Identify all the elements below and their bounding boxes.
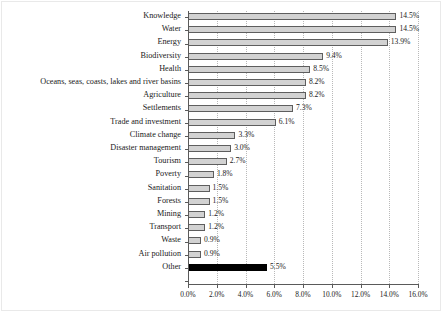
- bar-value-label: 3.3%: [238, 129, 254, 141]
- y-axis-tick: [185, 149, 189, 150]
- category-label-climate-change: Climate change: [130, 129, 181, 141]
- category-label-mining: Mining: [157, 208, 181, 220]
- bar-value-label: 1.2%: [208, 221, 224, 233]
- bar-row: 14.5%: [188, 24, 418, 37]
- bar-energy[interactable]: [188, 39, 388, 46]
- category-label-oceans-seas-coasts-lakes-and-river-basins: Oceans, seas, coasts, lakes and river ba…: [40, 76, 181, 88]
- x-axis-tick: [418, 284, 419, 288]
- bar-forests[interactable]: [188, 198, 210, 205]
- bar-mining[interactable]: [188, 211, 205, 218]
- bar-water[interactable]: [188, 26, 396, 33]
- bar-row: 13.9%: [188, 37, 418, 50]
- y-axis-tick: [185, 176, 189, 177]
- y-axis-tick: [185, 162, 189, 163]
- y-axis-tick: [185, 202, 189, 203]
- category-label-air-pollution: Air pollution: [138, 248, 181, 260]
- x-axis-tick: [217, 284, 218, 288]
- category-label-tourism: Tourism: [154, 155, 181, 167]
- bar-value-label: 8.2%: [309, 89, 325, 101]
- bar-value-label: 0.9%: [204, 248, 220, 260]
- bar-transport[interactable]: [188, 224, 205, 231]
- x-axis-tick: [303, 284, 304, 288]
- y-axis-tick: [185, 281, 189, 282]
- bar-row: 5.5%: [188, 262, 418, 275]
- bar-value-label: 1.2%: [208, 208, 224, 220]
- plot-area: 14.5%14.5%13.9%9.4%8.5%8.2%8.2%7.3%6.1%3…: [188, 11, 418, 284]
- category-label-forests: Forests: [157, 195, 181, 207]
- bar-value-label: 8.2%: [309, 76, 325, 88]
- bar-tourism[interactable]: [188, 158, 227, 165]
- bar-biodiversity[interactable]: [188, 53, 323, 60]
- bar-value-label: 1.5%: [213, 195, 229, 207]
- y-axis-tick: [185, 110, 189, 111]
- bar-value-label: 7.3%: [296, 102, 312, 114]
- y-axis-tick: [185, 44, 189, 45]
- category-label-biodiversity: Biodiversity: [141, 50, 181, 62]
- category-label-agriculture: Agriculture: [143, 89, 181, 101]
- x-axis-tick-label: 10.0%: [322, 290, 341, 299]
- x-axis-tick-label: 6.0%: [267, 290, 282, 299]
- y-axis-tick: [185, 255, 189, 256]
- category-axis-line: [188, 11, 189, 284]
- bar-trade-and-investment[interactable]: [188, 119, 276, 126]
- x-axis-tick: [332, 284, 333, 288]
- bar-row: 1.2%: [188, 209, 418, 222]
- bar-row: 6.1%: [188, 117, 418, 130]
- bar-settlements[interactable]: [188, 105, 293, 112]
- bar-row: 3.3%: [188, 130, 418, 143]
- bar-climate-change[interactable]: [188, 132, 235, 139]
- y-axis-tick: [185, 268, 189, 269]
- category-label-settlements: Settlements: [143, 102, 181, 114]
- bar-value-label: 9.4%: [326, 50, 342, 62]
- y-axis-tick: [185, 83, 189, 84]
- bar-value-label: 8.5%: [313, 63, 329, 75]
- category-label-poverty: Poverty: [156, 168, 181, 180]
- x-axis-tick-label: 4.0%: [238, 290, 253, 299]
- bar-row: 8.5%: [188, 64, 418, 77]
- bar-other[interactable]: [188, 264, 267, 271]
- category-label-other: Other: [162, 261, 181, 273]
- y-axis-tick: [185, 30, 189, 31]
- category-label-sanitation: Sanitation: [148, 182, 181, 194]
- y-axis-tick: [185, 215, 189, 216]
- x-axis-tick-label: 0.0%: [180, 290, 195, 299]
- x-axis-tick-label: 12.0%: [351, 290, 370, 299]
- category-axis-labels: KnowledgeWaterEnergyBiodiversityHealthOc…: [0, 11, 185, 284]
- category-label-trade-and-investment: Trade and investment: [110, 116, 181, 128]
- y-axis-tick: [185, 136, 189, 137]
- bar-value-label: 1.8%: [217, 168, 233, 180]
- bar-poverty[interactable]: [188, 171, 214, 178]
- x-axis-tick-label: 8.0%: [295, 290, 310, 299]
- y-axis-tick: [185, 57, 189, 58]
- category-label-knowledge: Knowledge: [143, 10, 181, 22]
- bar-agriculture[interactable]: [188, 92, 306, 99]
- bar-row: 1.2%: [188, 222, 418, 235]
- bar-row: 14.5%: [188, 11, 418, 24]
- bar-disaster-management[interactable]: [188, 145, 231, 152]
- bar-value-label: 5.5%: [270, 261, 286, 273]
- bar-value-label: 0.9%: [204, 234, 220, 246]
- bar-row: 8.2%: [188, 77, 418, 90]
- gridline-160: [418, 11, 419, 284]
- category-label-energy: Energy: [158, 36, 182, 48]
- bar-value-label: 1.5%: [213, 182, 229, 194]
- x-axis-tick: [246, 284, 247, 288]
- bar-value-label: 14.5%: [399, 23, 419, 35]
- bar-row: 0.9%: [188, 249, 418, 262]
- x-axis-tick-label: 14.0%: [380, 290, 399, 299]
- category-label-water: Water: [162, 23, 181, 35]
- y-axis-tick: [185, 17, 189, 18]
- bar-row: 9.4%: [188, 51, 418, 64]
- bar-row: 1.5%: [188, 196, 418, 209]
- bar-health[interactable]: [188, 66, 310, 73]
- bar-knowledge[interactable]: [188, 13, 396, 20]
- bar-sanitation[interactable]: [188, 185, 210, 192]
- bar-waste[interactable]: [188, 237, 201, 244]
- bar-value-label: 14.5%: [399, 10, 419, 22]
- bar-air-pollution[interactable]: [188, 251, 201, 258]
- x-axis-tick: [389, 284, 390, 288]
- x-axis-tick: [361, 284, 362, 288]
- category-label-disaster-management: Disaster management: [110, 142, 181, 154]
- bar-oceans-seas-coasts-lakes-and-river-basins[interactable]: [188, 79, 306, 86]
- x-axis-tick: [188, 284, 189, 288]
